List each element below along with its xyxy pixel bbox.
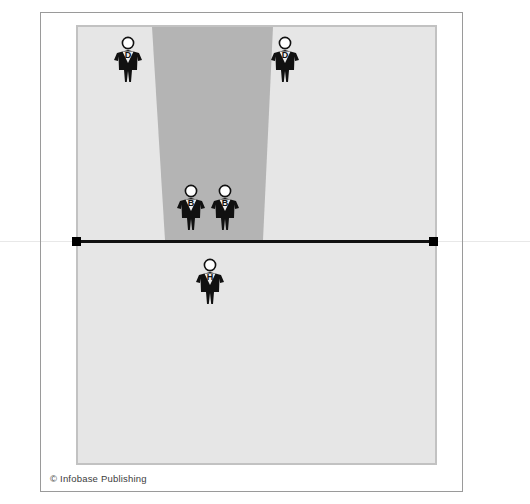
net-line <box>76 240 437 243</box>
player-figure: B <box>210 184 240 232</box>
player-label: B <box>222 198 229 208</box>
net-post-right-marker <box>429 237 438 246</box>
player-figure: D <box>113 36 143 84</box>
diagram-canvas: D D B B H © I <box>0 0 530 504</box>
player-label: D <box>125 50 132 60</box>
player-label: D <box>282 50 289 60</box>
net-post-left-marker <box>72 237 81 246</box>
court-rectangle <box>76 25 437 465</box>
player-figure: B <box>176 184 206 232</box>
player-label: B <box>188 198 195 208</box>
player-label: H <box>207 272 214 282</box>
copyright-credit: © Infobase Publishing <box>50 473 147 484</box>
player-figure: H <box>195 258 225 306</box>
player-figure: D <box>270 36 300 84</box>
